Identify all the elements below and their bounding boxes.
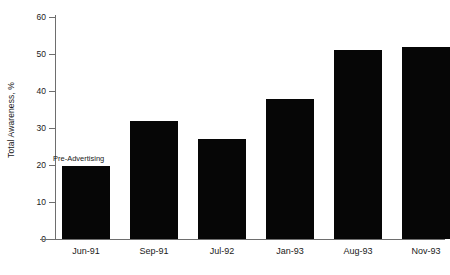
x-axis-category-label: Nov-93 (402, 247, 450, 256)
x-axis-category-label: Jan-93 (266, 247, 314, 256)
bars-layer (0, 0, 450, 239)
bar (266, 99, 314, 239)
bar (62, 166, 110, 239)
bar-chart: Total Awareness, % 0102030405060 Jun-91S… (0, 0, 450, 275)
x-axis-category-label: Jul-92 (198, 247, 246, 256)
x-axis-line (40, 239, 445, 240)
x-axis-category-label: Jun-91 (62, 247, 110, 256)
x-axis-category-label: Aug-93 (334, 247, 382, 256)
bar (334, 50, 382, 239)
bar (402, 47, 450, 239)
bar (130, 121, 178, 239)
x-axis-category-label: Sep-91 (130, 247, 178, 256)
chart-annotation: Pre-Advertising (53, 155, 104, 163)
bar (198, 139, 246, 239)
